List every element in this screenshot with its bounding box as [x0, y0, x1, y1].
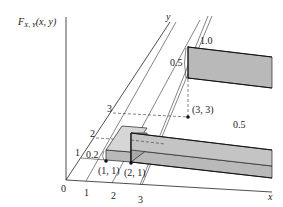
x-axis [66, 180, 272, 192]
level-label-1.0: 1.0 [200, 35, 213, 46]
point-1-1 [104, 159, 108, 163]
plateau-1.0-face [188, 47, 272, 88]
y-tick-2: 2 [90, 128, 95, 139]
grid-line-y3 [113, 113, 188, 117]
origin-label: 0 [61, 183, 66, 194]
x-tick-3: 3 [138, 194, 143, 205]
level-label-0.2: 0.2 [86, 149, 99, 160]
point-label-2-1: (2, 1) [124, 167, 146, 179]
y-tick-1: 1 [75, 147, 80, 158]
point-label-3-3: (3, 3) [192, 104, 214, 116]
joint-cdf-diagram: FX, Y(x, y) y x 0 1 2 3 1 2 3 (1, 1) (2,… [0, 0, 283, 207]
x-tick-2: 2 [111, 190, 116, 201]
point-label-1-1: (1, 1) [98, 165, 120, 177]
y-axis-label: y [165, 11, 171, 22]
brace-0.2 [103, 151, 105, 160]
y-tick-3: 3 [107, 103, 112, 114]
x-tick-1: 1 [84, 187, 89, 198]
point-2-1 [129, 161, 133, 165]
level-label-lower-0.5: 0.5 [233, 119, 246, 130]
diagram-svg: FX, Y(x, y) y x 0 1 2 3 1 2 3 (1, 1) (2,… [0, 0, 283, 207]
point-3-3 [186, 115, 190, 119]
level-label-upper-0.5: 0.5 [170, 57, 183, 68]
vertical-axis-label: FX, Y(x, y) [17, 16, 57, 29]
x-axis-label: x [267, 191, 273, 202]
